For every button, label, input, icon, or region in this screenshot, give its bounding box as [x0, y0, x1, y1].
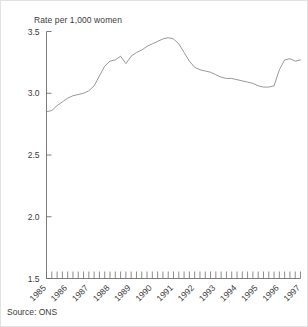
x-axis-tick-label: 1988 — [91, 283, 112, 304]
x-axis-tick-label: 1997 — [281, 283, 302, 304]
y-axis-tick-label: 2.5 — [28, 150, 40, 160]
source-note: Source: ONS — [7, 307, 57, 317]
line-chart-plot: 1.52.02.53.03.5 198519861987198819891990… — [1, 1, 308, 327]
x-axis-tick-label: 1986 — [49, 283, 70, 304]
chart-figure: Rate per 1,000 women 1.52.02.53.03.5 198… — [0, 0, 308, 327]
x-axis-tick-label: 1996 — [260, 283, 281, 304]
x-axis-tick-label: 1994 — [218, 283, 239, 304]
x-axis-tick-label: 1987 — [70, 283, 91, 304]
y-axis-tick-label: 2.0 — [28, 212, 40, 222]
x-axis-tick-label: 1995 — [239, 283, 260, 304]
y-axis-tick-label: 3.0 — [28, 88, 40, 98]
y-axis-tick-marks — [47, 32, 52, 279]
x-axis-tick-label: 1992 — [176, 283, 197, 304]
x-axis-tick-marks — [47, 272, 301, 279]
x-axis-tick-label: 1989 — [112, 283, 133, 304]
data-series-line — [47, 38, 301, 112]
x-axis-tick-label: 1985 — [27, 283, 48, 304]
x-axis-tick-label: 1990 — [133, 283, 154, 304]
x-axis-tick-labels: 1985198619871988198919901991199219931994… — [27, 283, 302, 304]
x-axis-tick-label: 1993 — [197, 283, 218, 304]
y-axis-tick-labels: 1.52.02.53.03.5 — [28, 27, 40, 284]
y-axis-tick-label: 3.5 — [28, 27, 40, 37]
y-axis-tick-label: 1.5 — [28, 274, 40, 284]
x-axis-tick-label: 1991 — [154, 283, 175, 304]
